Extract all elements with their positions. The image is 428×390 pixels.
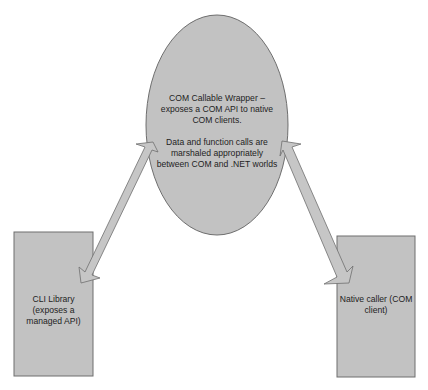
ccw-text-line: marshaled appropriately — [146, 148, 288, 159]
cli-library-text-line: CLI Library — [14, 294, 93, 305]
native-caller-text-line: Native caller (COM — [337, 294, 415, 305]
ccw-text-line: COM clients. — [146, 115, 288, 126]
ccw-text-line: Data and function calls are — [146, 137, 288, 148]
native-caller-label: Native caller (COM client) — [337, 294, 415, 316]
right-double-arrow-icon — [280, 141, 353, 284]
ccw-text-line: COM Callable Wrapper – — [146, 93, 288, 104]
native-caller-text-line: client) — [337, 305, 415, 316]
cli-library-text-line: (exposes a — [14, 305, 93, 316]
diagram-canvas — [0, 0, 428, 390]
ccw-text-line: between COM and .NET worlds — [146, 159, 288, 170]
ccw-label: COM Callable Wrapper – exposes a COM API… — [146, 93, 288, 170]
cli-library-label: CLI Library (exposes a managed API) — [14, 294, 93, 327]
cli-library-text-line: managed API) — [14, 316, 93, 327]
ccw-text-line: exposes a COM API to native — [146, 104, 288, 115]
